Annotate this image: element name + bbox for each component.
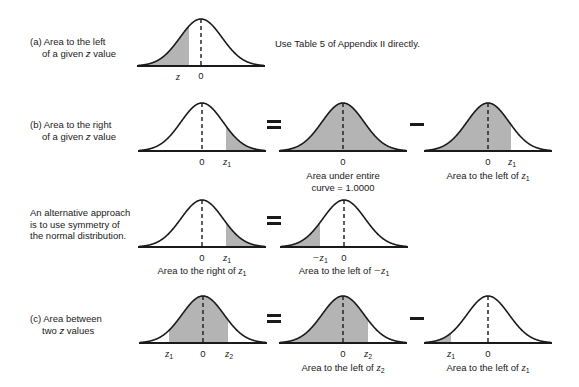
section-a-label-line2: of a given z value bbox=[30, 48, 116, 60]
equals-operator bbox=[266, 313, 282, 325]
tick-z1: z1 bbox=[223, 252, 231, 266]
tick-neg-z1: −z1 bbox=[312, 252, 328, 266]
section-a-note: Use Table 5 of Appendix II directly. bbox=[275, 38, 420, 50]
section-c-label: (c) Area between two z values bbox=[30, 313, 102, 336]
tick-zero: 0 bbox=[198, 71, 203, 81]
tick-zero: 0 bbox=[341, 253, 346, 263]
shaded-area bbox=[226, 223, 265, 247]
normal-curve-c3 bbox=[424, 296, 552, 343]
tick-z1: z1 bbox=[447, 348, 455, 362]
section-b-label: (b) Area to the right of a given z value bbox=[30, 119, 116, 142]
normal-curve-b2 bbox=[279, 103, 407, 151]
minus-operator bbox=[409, 316, 425, 322]
tick-z2: z2 bbox=[364, 348, 372, 362]
caption-right-of-z1: Area to the right of z1 bbox=[158, 265, 247, 280]
equals-operator bbox=[266, 215, 282, 227]
shaded-area bbox=[140, 26, 189, 66]
section-b-label-line2: of a given z value bbox=[30, 131, 116, 143]
shaded-area bbox=[425, 103, 511, 151]
section-a-label-line1: (a) Area to the left bbox=[30, 36, 106, 47]
normal-curve-c2 bbox=[279, 296, 407, 343]
tick-z1: z1 bbox=[508, 156, 516, 170]
shaded-area bbox=[226, 126, 265, 151]
tick-z1: z1 bbox=[223, 156, 231, 170]
normal-curve-a bbox=[137, 19, 265, 66]
tick-zero: 0 bbox=[340, 157, 345, 167]
normal-curve-b1 bbox=[138, 103, 266, 151]
minus-operator bbox=[409, 122, 425, 128]
tick-z2: z2 bbox=[225, 348, 233, 362]
section-c-label-line2: two z values bbox=[30, 325, 102, 337]
caption-entire-area: Area under entire curve = 1.0000 bbox=[306, 170, 379, 193]
shaded-area bbox=[281, 223, 320, 247]
caption-left-of-neg-z1: Area to the left of −z1 bbox=[299, 265, 390, 280]
equals-operator bbox=[266, 119, 282, 131]
tick-zero: 0 bbox=[200, 349, 205, 359]
normal-curve-b3 bbox=[424, 103, 552, 151]
normal-curve-c1 bbox=[139, 296, 267, 343]
tick-z1: z1 bbox=[165, 348, 173, 362]
section-c-label-line1: (c) Area between bbox=[30, 313, 102, 324]
normal-curve-alt1 bbox=[138, 200, 266, 247]
caption-left-of-z1: Area to the left of z1 bbox=[446, 362, 529, 377]
section-a-label: (a) Area to the left of a given z value bbox=[30, 36, 116, 59]
tick-zero: 0 bbox=[199, 253, 204, 263]
tick-zero: 0 bbox=[199, 157, 204, 167]
alternative-approach-label: An alternative approach is to use symmet… bbox=[30, 207, 130, 242]
tick-z: z bbox=[176, 71, 180, 81]
caption-left-of-z1: Area to the left of z1 bbox=[446, 170, 529, 185]
tick-zero: 0 bbox=[485, 349, 490, 359]
tick-zero: 0 bbox=[340, 349, 345, 359]
tick-zero: 0 bbox=[485, 157, 490, 167]
normal-curve-alt2 bbox=[280, 200, 408, 247]
section-b-label-line1: (b) Area to the right bbox=[30, 119, 111, 130]
caption-left-of-z2: Area to the left of z2 bbox=[301, 362, 384, 377]
